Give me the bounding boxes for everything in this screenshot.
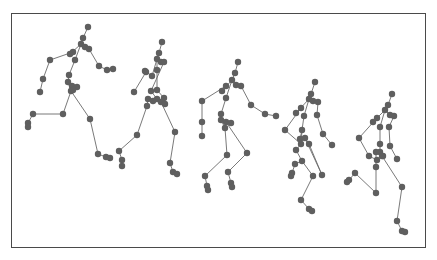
joint-keypoint [148, 88, 154, 94]
joint-keypoint [244, 150, 250, 156]
joint-keypoint [282, 127, 288, 133]
joint-keypoint [199, 98, 205, 104]
joint-keypoint [104, 67, 110, 73]
bone [63, 91, 71, 114]
joint-keypoint [399, 184, 405, 190]
joint-keypoint [150, 98, 156, 104]
joint-keypoint [143, 69, 149, 75]
joint-keypoint [225, 169, 231, 175]
joint-keypoint [218, 111, 224, 117]
joint-keypoint [161, 59, 167, 65]
joint-keypoint [119, 157, 125, 163]
joint-keypoint [47, 57, 53, 63]
joint-keypoint [299, 158, 305, 164]
joint-keypoint [320, 131, 326, 137]
joint-keypoint [314, 112, 320, 118]
joint-keypoint [379, 153, 385, 159]
joint-keypoint [389, 91, 395, 97]
joint-keypoint [199, 119, 205, 125]
joint-keypoint [86, 46, 92, 52]
joint-keypoint [110, 66, 116, 72]
joint-keypoint [238, 83, 244, 89]
pose-skeleton-canvas [0, 0, 437, 260]
bone [226, 122, 247, 153]
joint-keypoint [273, 113, 279, 119]
joint-keypoint [298, 197, 304, 203]
joint-keypoint [30, 111, 36, 117]
joint-keypoint [224, 152, 230, 158]
joint-keypoint [298, 141, 304, 147]
joint-keypoint [299, 127, 305, 133]
joint-keypoint [356, 135, 362, 141]
joint-keypoint [134, 132, 140, 138]
joint-keypoint [72, 57, 78, 63]
joint-keypoint [229, 77, 235, 83]
bone [225, 128, 227, 155]
joint-keypoint [232, 70, 238, 76]
joint-keypoint [95, 151, 101, 157]
joint-keypoint [67, 51, 73, 57]
joint-keypoint [202, 173, 208, 179]
joint-keypoint [60, 111, 66, 117]
joint-keypoint [223, 95, 229, 101]
joint-keypoint [301, 113, 307, 119]
joint-keypoint [394, 218, 400, 224]
joint-keypoint [377, 141, 383, 147]
joint-keypoint [298, 105, 304, 111]
bone [134, 72, 146, 92]
joint-keypoint [293, 110, 299, 116]
joint-keypoint [156, 50, 162, 56]
joint-keypoint [85, 24, 91, 30]
joint-keypoint [319, 172, 325, 178]
bone [205, 155, 227, 176]
joint-keypoint [25, 124, 31, 130]
joint-keypoint [373, 190, 379, 196]
joint-keypoint [144, 103, 150, 109]
joint-keypoint [302, 135, 308, 141]
joint-keypoint [131, 89, 137, 95]
bone [228, 153, 247, 172]
joint-keypoint [387, 143, 393, 149]
joint-keypoint [377, 124, 383, 130]
joint-keypoint [315, 99, 321, 105]
joint-keypoint [309, 208, 315, 214]
joint-keypoint [293, 147, 299, 153]
bone [241, 86, 251, 105]
bone [397, 187, 402, 221]
joint-keypoint [366, 153, 372, 159]
joint-keypoint [154, 67, 160, 73]
joint-keypoint [370, 119, 376, 125]
skeleton-2 [116, 39, 180, 177]
bone [309, 144, 322, 175]
joint-keypoint [235, 59, 241, 65]
joint-keypoint [70, 87, 76, 93]
joint-keypoint [37, 89, 43, 95]
skeleton-3 [199, 59, 279, 193]
joint-keypoint [219, 88, 225, 94]
joint-keypoint [199, 133, 205, 139]
joint-keypoint [228, 120, 234, 126]
bone [90, 119, 98, 154]
joint-keypoint [373, 164, 379, 170]
bone [119, 135, 137, 151]
skeleton-1 [25, 24, 116, 161]
joint-keypoint [288, 173, 294, 179]
joint-keypoint [382, 107, 388, 113]
joint-keypoint [402, 229, 408, 235]
joint-keypoint [167, 160, 173, 166]
skeleton-5 [344, 91, 408, 235]
bone [301, 176, 313, 200]
joint-keypoint [391, 113, 397, 119]
joint-keypoint [229, 184, 235, 190]
joint-keypoint [312, 79, 318, 85]
joint-keypoint [374, 157, 380, 163]
joint-keypoint [107, 155, 113, 161]
joint-keypoint [205, 187, 211, 193]
joint-keypoint [154, 87, 160, 93]
joint-keypoint [310, 173, 316, 179]
joint-keypoint [329, 142, 335, 148]
joint-keypoint [172, 129, 178, 135]
joint-keypoint [149, 73, 155, 79]
bone [137, 106, 147, 135]
joint-keypoint [66, 72, 72, 78]
